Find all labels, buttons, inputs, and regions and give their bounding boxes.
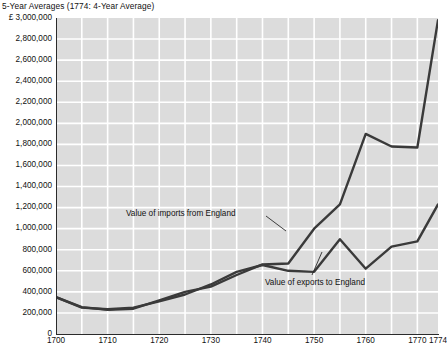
plot-area (56, 18, 438, 334)
y-tick-label: 1,200,000 (0, 202, 52, 211)
x-tick-label: 1700 (47, 336, 65, 345)
y-axis-line (56, 18, 57, 335)
y-tick-label: 2,200,000 (0, 97, 52, 106)
y-tick-label: 2,000,000 (0, 118, 52, 127)
x-tick-label: 1710 (99, 336, 117, 345)
x-axis-line (56, 334, 439, 335)
y-tick-label: 800,000 (0, 245, 52, 254)
annotation-imports-label: Value of imports from England (126, 209, 236, 218)
x-tick-label: 1770 (408, 336, 426, 345)
y-tick-label: 400,000 (0, 287, 52, 296)
x-tick-label: 1740 (253, 336, 271, 345)
x-tick-label: 1730 (202, 336, 220, 345)
y-tick-label: 2,800,000 (0, 34, 52, 43)
y-tick-label: 1,000,000 (0, 223, 52, 232)
x-tick-label: 1750 (305, 336, 323, 345)
x-tick-label: 1720 (150, 336, 168, 345)
x-tick-label: 1760 (357, 336, 375, 345)
y-tick-label: 1,600,000 (0, 160, 52, 169)
y-axis-tick-labels: £ 3,000,0002,800,0002,600,0002,400,0002,… (0, 0, 52, 354)
annotation-exports-label: Value of exports to England (265, 278, 365, 287)
x-axis-tick-labels: 170017101720173017401750176017701774 (0, 336, 442, 354)
y-tick-label: 1,800,000 (0, 139, 52, 148)
series-line-exports (56, 204, 438, 309)
x-tick-label: 1774 (429, 336, 447, 345)
y-tick-label: 1,400,000 (0, 181, 52, 190)
plot-svg (56, 18, 438, 334)
y-tick-label: 200,000 (0, 308, 52, 317)
y-tick-label: 600,000 (0, 266, 52, 275)
y-tick-label: 2,600,000 (0, 55, 52, 64)
y-tick-label: £ 3,000,000 (0, 13, 52, 22)
y-tick-label: 2,400,000 (0, 76, 52, 85)
